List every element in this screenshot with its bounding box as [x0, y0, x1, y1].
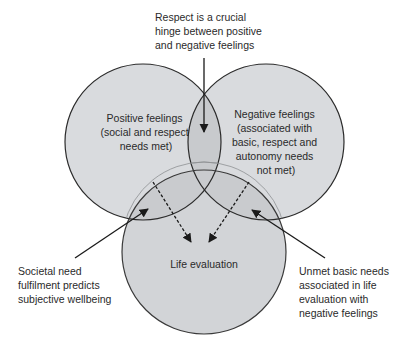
venn-diagram: Respect is a crucial hinge between posit…	[0, 0, 401, 347]
annotation-respect-hinge: Respect is a crucial hinge between posit…	[155, 11, 265, 51]
label-life-evaluation: Life evaluation	[170, 258, 238, 270]
annotation-unmet-basic-needs: Unmet basic needs associated in life eva…	[299, 265, 392, 319]
annotation-societal-need: Societal need fulfilment predicts subjec…	[18, 265, 112, 305]
